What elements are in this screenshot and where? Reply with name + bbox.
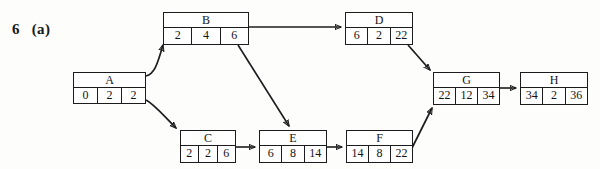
scan-artifact-text bbox=[148, 0, 188, 2]
node-D-cell-2: 22 bbox=[391, 28, 412, 44]
node-D[interactable]: D 6 2 22 bbox=[345, 12, 413, 45]
node-B-cell-0: 2 bbox=[164, 28, 192, 44]
node-C-label: C bbox=[181, 131, 235, 146]
node-C-cells: 2 2 6 bbox=[181, 146, 235, 162]
node-A-cells: 0 2 2 bbox=[74, 88, 145, 103]
node-E-label: E bbox=[260, 131, 326, 146]
node-E-cell-2: 14 bbox=[305, 146, 326, 162]
node-B-label: B bbox=[164, 13, 248, 28]
node-F[interactable]: F 14 8 22 bbox=[346, 130, 413, 163]
problem-label: 6(a) bbox=[12, 21, 50, 38]
problem-number: 6 bbox=[12, 21, 20, 37]
node-H[interactable]: H 34 2 36 bbox=[520, 72, 588, 105]
node-E[interactable]: E 6 8 14 bbox=[259, 130, 327, 163]
node-H-cells: 34 2 36 bbox=[521, 88, 587, 104]
node-E-cells: 6 8 14 bbox=[260, 146, 326, 162]
node-C[interactable]: C 2 2 6 bbox=[180, 130, 236, 163]
node-D-cell-0: 6 bbox=[346, 28, 368, 44]
node-A[interactable]: A 0 2 2 bbox=[73, 72, 146, 104]
node-D-cells: 6 2 22 bbox=[346, 28, 412, 44]
node-H-cell-2: 36 bbox=[566, 88, 587, 104]
node-H-label: H bbox=[521, 73, 587, 88]
node-H-cell-1: 2 bbox=[543, 88, 565, 104]
node-B[interactable]: B 2 4 6 bbox=[163, 12, 249, 45]
node-B-cell-1: 4 bbox=[192, 28, 220, 44]
node-C-cell-1: 2 bbox=[199, 146, 217, 162]
node-G[interactable]: G 22 12 34 bbox=[433, 72, 500, 105]
node-A-cell-0: 0 bbox=[74, 88, 98, 103]
node-B-cell-2: 6 bbox=[221, 28, 248, 44]
node-H-cell-0: 34 bbox=[521, 88, 543, 104]
node-G-cells: 22 12 34 bbox=[434, 88, 499, 104]
node-E-cell-0: 6 bbox=[260, 146, 282, 162]
node-F-label: F bbox=[347, 131, 412, 146]
node-F-cell-1: 8 bbox=[369, 146, 391, 162]
node-D-label: D bbox=[346, 13, 412, 28]
node-F-cell-0: 14 bbox=[347, 146, 369, 162]
node-F-cells: 14 8 22 bbox=[347, 146, 412, 162]
node-G-cell-2: 34 bbox=[478, 88, 499, 104]
node-G-cell-0: 22 bbox=[434, 88, 456, 104]
node-B-cells: 2 4 6 bbox=[164, 28, 248, 44]
node-F-cell-2: 22 bbox=[391, 146, 412, 162]
edge-A-B bbox=[146, 45, 163, 76]
node-C-cell-2: 6 bbox=[218, 146, 235, 162]
edge-D-G bbox=[408, 45, 430, 70]
node-E-cell-1: 8 bbox=[282, 146, 304, 162]
edge-A-C bbox=[146, 100, 176, 128]
node-C-cell-0: 2 bbox=[181, 146, 199, 162]
node-G-label: G bbox=[434, 73, 499, 88]
edge-B-E bbox=[238, 45, 289, 126]
edge-F-G bbox=[412, 108, 432, 148]
node-A-cell-1: 2 bbox=[98, 88, 122, 103]
node-A-cell-2: 2 bbox=[122, 88, 145, 103]
node-A-label: A bbox=[74, 73, 145, 88]
node-D-cell-1: 2 bbox=[368, 28, 390, 44]
problem-part: (a) bbox=[32, 21, 50, 37]
figure-canvas: 6(a) A 0 2 2 bbox=[0, 0, 600, 169]
node-G-cell-1: 12 bbox=[456, 88, 478, 104]
